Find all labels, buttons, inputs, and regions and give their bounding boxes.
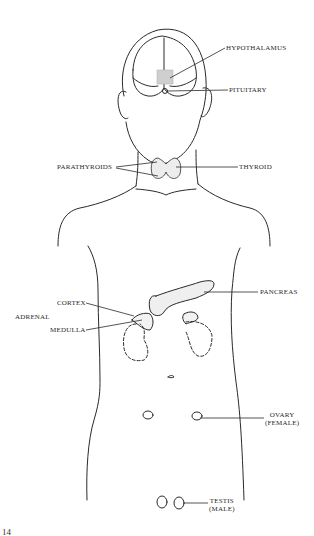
collarbone	[136, 189, 196, 195]
torso-right-outline	[198, 184, 270, 246]
label-testis-sub: (MALE)	[209, 505, 235, 513]
label-testis-name: TESTIS	[209, 497, 235, 505]
waist-right-outline	[231, 248, 244, 500]
label-adrenal: ADRENAL	[15, 313, 50, 321]
label-pituitary: PITUITARY	[229, 86, 267, 94]
label-parathyroids: PARATHYROIDS	[57, 163, 112, 171]
left-kidney	[124, 324, 148, 361]
medulla-leader	[86, 320, 142, 330]
label-ovary-sub: (FEMALE)	[265, 419, 299, 427]
left-ovary	[143, 411, 153, 419]
right-kidney	[186, 322, 212, 357]
navel	[168, 376, 174, 378]
brain-lobe-line-right	[170, 78, 196, 87]
label-pancreas: PANCREAS	[260, 288, 298, 296]
torso-left-outline	[58, 186, 136, 246]
brain-outline	[133, 36, 197, 96]
hypothalamus-leader	[170, 48, 225, 78]
label-testis: TESTIS (MALE)	[209, 497, 235, 513]
waist-left-outline	[87, 246, 100, 500]
right-testis	[174, 497, 184, 509]
label-cortex: CORTEX	[57, 299, 86, 307]
neck-left	[136, 152, 138, 186]
left-ear-outline	[118, 91, 128, 119]
right-ovary	[192, 412, 202, 420]
brain-lobe-line-left	[133, 78, 158, 87]
pancreas-gland	[149, 281, 214, 316]
hypothalamus-region	[157, 70, 173, 84]
label-thyroid: THYROID	[239, 163, 272, 171]
cortex-leader	[86, 303, 134, 316]
endocrine-diagram	[0, 0, 314, 536]
label-ovary: OVARY (FEMALE)	[265, 411, 299, 427]
pituitary-leader	[167, 90, 228, 91]
parathyroids-leader-upper	[116, 162, 157, 167]
left-testis	[157, 496, 167, 508]
label-medulla: MEDULLA	[50, 326, 86, 334]
label-ovary-name: OVARY	[265, 411, 299, 419]
page-number: 14	[2, 527, 11, 536]
label-hypothalamus: HYPOTHALAMUS	[226, 44, 286, 52]
